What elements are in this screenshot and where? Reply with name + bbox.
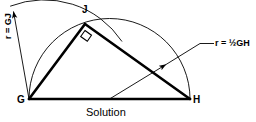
leader-line-radius-half-gh bbox=[110, 65, 167, 100]
annotation-radius-half-gh: r = ½GH bbox=[215, 39, 250, 48]
leader-line-radius-gj bbox=[14, 12, 30, 100]
figure-canvas bbox=[0, 0, 256, 122]
annotation-radius-gj: r = GJ bbox=[4, 13, 13, 39]
segment-jh bbox=[85, 24, 190, 99]
vertex-label-g: G bbox=[17, 95, 25, 105]
segment-gj bbox=[29, 24, 85, 99]
leader-elbow-radius-half-gh bbox=[166, 44, 214, 65]
geometry-figure: G J H r = GJ r = ½GH Solution bbox=[0, 0, 256, 122]
vertex-label-h: H bbox=[193, 95, 200, 105]
vertex-label-j: J bbox=[82, 5, 88, 15]
figure-caption: Solution bbox=[86, 107, 126, 118]
right-angle-marker-at-j bbox=[81, 31, 92, 42]
arc-radius-gj bbox=[10, 0, 122, 42]
semicircle-on-gh bbox=[29, 19, 190, 100]
